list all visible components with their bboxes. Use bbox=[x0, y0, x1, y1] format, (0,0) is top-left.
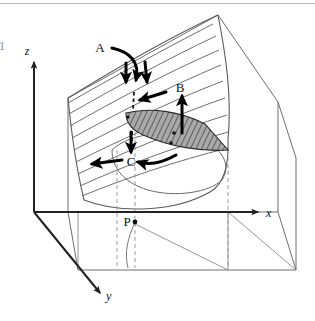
box-back-ridge bbox=[68, 15, 218, 98]
arrow-b-left bbox=[140, 92, 166, 100]
base-diag-mid bbox=[135, 224, 228, 270]
axis-label-z: z bbox=[24, 44, 30, 58]
base-diag-right bbox=[228, 212, 296, 270]
figure-root: 1 z x y A B C P bbox=[0, 0, 315, 321]
contour-line-2 bbox=[69, 36, 216, 114]
base-plane-construction bbox=[78, 212, 296, 270]
hatched-wedge bbox=[126, 110, 228, 150]
surface-right-ridge bbox=[218, 15, 229, 140]
y-axis bbox=[34, 212, 100, 293]
box-peak-to-right bbox=[218, 15, 278, 102]
point-p-dot bbox=[133, 220, 138, 225]
arrow-c-left bbox=[92, 160, 122, 164]
arrow-a-down-right bbox=[145, 62, 147, 82]
label-b: B bbox=[176, 80, 185, 95]
label-c: C bbox=[127, 154, 136, 169]
label-a: A bbox=[95, 40, 105, 55]
contour-line-1 bbox=[68, 24, 213, 103]
diagram-canvas: 1 z x y A B C P bbox=[0, 0, 315, 321]
label-p: P bbox=[123, 214, 130, 229]
surface-dot-2 bbox=[169, 141, 173, 145]
arrow-group-a bbox=[112, 48, 147, 82]
axis-label-x: x bbox=[265, 206, 272, 220]
surface-dot-3 bbox=[126, 115, 129, 118]
box-right-face bbox=[278, 102, 296, 270]
surface-dot-1 bbox=[172, 131, 176, 135]
axis-label-y: y bbox=[105, 289, 112, 303]
label-clipped-left: 1 bbox=[0, 39, 5, 53]
